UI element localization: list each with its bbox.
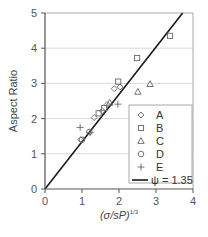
square-marker-icon (167, 33, 172, 38)
x-tick-label: 1 (79, 195, 85, 207)
y-axis-label: Aspect Ratio (7, 70, 19, 132)
legend-line-label: ψ = 1.35 (151, 174, 193, 186)
legend-label: E (156, 161, 163, 173)
square-marker-icon (135, 55, 140, 60)
x-axis-label-sup: 1/3 (130, 209, 139, 215)
plus-marker-icon (77, 124, 84, 131)
series-A (78, 84, 123, 143)
legend-label: C (156, 135, 164, 147)
x-axis-label-main: (σ/sP) (100, 209, 130, 221)
x-tick-label: 4 (190, 195, 196, 207)
legend-label: D (156, 148, 164, 160)
legend-label: B (156, 122, 163, 134)
x-tick-labels: 01234 (42, 195, 196, 207)
y-tick-label: 1 (31, 148, 37, 160)
y-tick-label: 5 (31, 7, 37, 19)
scatter-chart: 012345 01234 Aspect Ratio (σ/sP)1/3 ABCD… (0, 0, 208, 237)
plus-marker-icon (114, 101, 121, 108)
x-axis-label: (σ/sP)1/3 (100, 209, 139, 221)
y-tick-label: 3 (31, 77, 37, 89)
y-tick-labels: 012345 (31, 7, 37, 195)
x-tick-label: 0 (42, 195, 48, 207)
y-tick-label: 2 (31, 113, 37, 125)
y-tick-label: 4 (31, 42, 37, 54)
x-tick-label: 2 (116, 195, 122, 207)
x-tick-label: 3 (153, 195, 159, 207)
triangle-marker-icon (135, 88, 141, 94)
diamond-marker-icon (111, 86, 117, 92)
legend: ABCDEψ = 1.35 (129, 105, 193, 186)
y-tick-label: 0 (31, 183, 37, 195)
legend-label: A (156, 109, 164, 121)
